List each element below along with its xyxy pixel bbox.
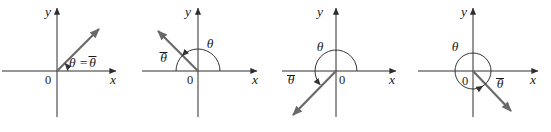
x-axis-label: x (109, 72, 116, 87)
terminal-ray (473, 71, 511, 111)
terminal-ray (293, 71, 336, 115)
angle-arc-arrow (182, 52, 187, 55)
y-axis-label: y (183, 4, 191, 19)
panel-quadrant-1: y x 0 θ = θ (2, 4, 116, 117)
origin-label: 0 (339, 73, 345, 87)
reference-angle-figure: y x 0 θ = θ y x 0 θ θ y x (0, 0, 551, 132)
theta-label: θ (207, 36, 214, 51)
y-axis-label: y (43, 4, 51, 19)
theta-label: θ (317, 39, 324, 54)
theta-bar-label: θ (89, 55, 96, 70)
origin-label: 0 (45, 73, 51, 87)
panel-quadrant-2: y x 0 θ θ (142, 4, 258, 117)
angle-arc (65, 64, 68, 71)
origin-label: 0 (187, 73, 193, 87)
x-axis-label: x (529, 72, 536, 87)
x-axis-label: x (388, 72, 395, 87)
origin-label: 0 (462, 74, 468, 88)
angle-arc-arrow (478, 86, 483, 88)
figure-canvas: y x 0 θ = θ y x 0 θ θ y x (0, 0, 551, 132)
panel-quadrant-3: y x 0 θ θ (282, 4, 396, 117)
y-axis-label: y (459, 4, 467, 19)
y-axis-label: y (315, 4, 323, 19)
theta-label: θ (452, 39, 459, 54)
theta-equals-label: θ = (69, 55, 88, 70)
theta-bar-label: θ (288, 72, 295, 87)
panel-quadrant-4: y x 0 θ θ (418, 4, 538, 117)
x-axis-label: x (251, 72, 258, 87)
